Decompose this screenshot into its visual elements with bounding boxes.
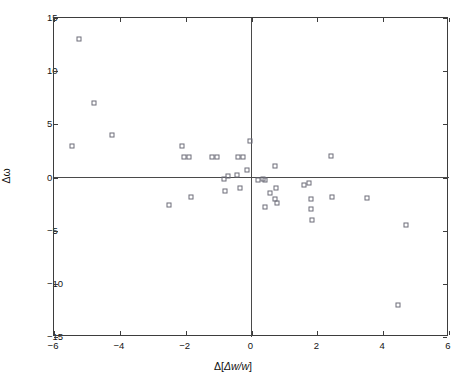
scatter-point <box>237 185 242 190</box>
scatter-point <box>91 101 96 106</box>
scatter-point <box>364 196 369 201</box>
plot-area <box>53 17 448 336</box>
scatter-point <box>244 167 249 172</box>
scatter-point <box>275 201 280 206</box>
zero-vertical-reference-line <box>251 18 252 337</box>
x-tick-label--2: −2 <box>179 340 190 351</box>
x-tick-0 <box>252 331 253 335</box>
y-tick-5 <box>54 124 58 125</box>
y-axis-title: Δω <box>0 168 12 183</box>
scatter-point <box>109 132 114 137</box>
x-tick-label-4: 4 <box>380 340 385 351</box>
scatter-point <box>241 154 246 159</box>
x-tick-top-6 <box>449 18 450 22</box>
scatter-point <box>330 194 335 199</box>
scatter-point <box>234 173 239 178</box>
x-tick-label-6: 6 <box>445 340 450 351</box>
x-tick-6 <box>449 331 450 335</box>
scatter-point <box>310 218 315 223</box>
scatter-point <box>214 154 219 159</box>
scatter-point <box>188 194 193 199</box>
y-tick-right-0 <box>443 178 447 179</box>
scatter-point <box>167 203 172 208</box>
scatter-point <box>247 138 252 143</box>
scatter-point <box>186 155 191 160</box>
x-tick-top-4 <box>383 18 384 22</box>
x-tick-label--4: −4 <box>113 340 124 351</box>
x-tick-top-2 <box>317 18 318 22</box>
y-tick--15 <box>54 337 58 338</box>
scatter-point <box>76 37 81 42</box>
scatter-point <box>328 154 333 159</box>
x-axis-title: Δ[Δw/w] <box>0 360 466 372</box>
x-tick-2 <box>317 331 318 335</box>
x-tick--2 <box>186 331 187 335</box>
scatter-point <box>262 177 267 182</box>
y-tick-right-5 <box>443 124 447 125</box>
y-tick-right-15 <box>443 18 447 19</box>
x-tick-label--6: −6 <box>48 340 59 351</box>
scatter-point <box>223 189 228 194</box>
scatter-point <box>262 205 267 210</box>
x-tick-top--2 <box>186 18 187 22</box>
x-tick-label-2: 2 <box>314 340 319 351</box>
y-tick-15 <box>54 18 58 19</box>
scatter-point <box>273 164 278 169</box>
scatter-point <box>274 186 279 191</box>
y-tick--5 <box>54 231 58 232</box>
scatter-point <box>180 143 185 148</box>
y-tick-right--10 <box>443 284 447 285</box>
scatter-point <box>309 207 314 212</box>
x-tick--6 <box>54 331 55 335</box>
scatter-point <box>226 173 231 178</box>
x-tick--4 <box>120 331 121 335</box>
scatter-point <box>395 303 400 308</box>
y-tick-0 <box>54 178 58 179</box>
y-axis-title-text: Δω <box>0 168 12 183</box>
scatter-point <box>307 181 312 186</box>
x-tick-top--4 <box>120 18 121 22</box>
figure-canvas: Δω Δ[Δw/w] −6−4−20246 151050−5−10−15 <box>0 0 466 383</box>
y-tick-right--15 <box>443 337 447 338</box>
scatter-point <box>267 191 272 196</box>
scatter-point <box>404 222 409 227</box>
y-tick-right-10 <box>443 71 447 72</box>
scatter-point <box>70 143 75 148</box>
x-axis-title-text: Δ[Δw/w] <box>214 360 252 372</box>
y-tick-10 <box>54 71 58 72</box>
y-tick-right--5 <box>443 231 447 232</box>
scatter-point <box>308 197 313 202</box>
x-tick-4 <box>383 331 384 335</box>
x-tick-top-0 <box>252 18 253 22</box>
x-tick-label-0: 0 <box>248 340 253 351</box>
y-tick--10 <box>54 284 58 285</box>
